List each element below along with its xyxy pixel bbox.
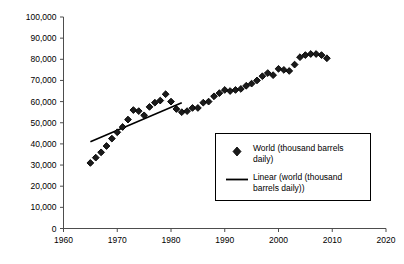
x-tick-label: 1970 [108,235,127,245]
legend-label-world-line2: daily) [253,154,273,164]
legend-label-linear-line1: Linear (world (thousand [253,172,343,182]
x-tick-label: 2000 [269,235,288,245]
y-tick-label: 20,000 [31,181,57,191]
x-tick-label: 1980 [162,235,181,245]
y-tick-label: 60,000 [31,97,57,107]
y-tick-label: 80,000 [31,54,57,64]
y-tick-label: 10,000 [31,202,57,212]
y-tick-label: 70,000 [31,75,57,85]
chart-container: 010,00020,00030,00040,00050,00060,00070,… [0,0,404,264]
y-tick-label: 40,000 [31,139,57,149]
y-tick-label: 100,000 [26,12,57,22]
y-tick-label: 90,000 [31,33,57,43]
legend-label-world-line1: World (thousand barrels [253,143,344,153]
y-tick-label: 50,000 [31,118,57,128]
y-tick-label: 30,000 [31,160,57,170]
x-tick-label: 1990 [215,235,234,245]
y-tick-label: 0 [52,224,57,234]
chart-background [0,0,404,264]
x-tick-label: 2020 [377,235,396,245]
x-tick-label: 1960 [54,235,73,245]
chart-legend[interactable]: World (thousand barrels daily) Linear (w… [216,134,371,201]
x-tick-label: 2010 [323,235,342,245]
chart-plot-svg: 010,00020,00030,00040,00050,00060,00070,… [0,0,404,264]
legend-label-linear-line2: barrels daily)) [253,183,305,193]
